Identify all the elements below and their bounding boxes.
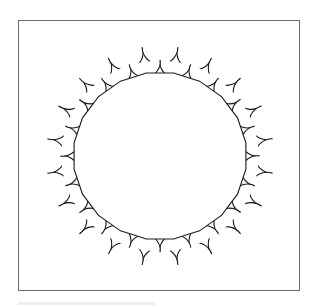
scalloped-ring-diagram [0, 0, 321, 307]
caption-bar [18, 302, 155, 305]
inner-polygon [74, 73, 246, 239]
